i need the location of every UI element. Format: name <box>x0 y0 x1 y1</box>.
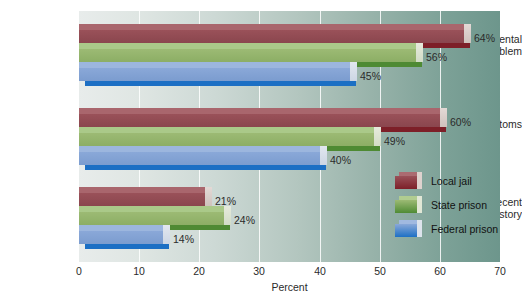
legend-swatch-state-prison-icon <box>395 200 417 213</box>
xtick-40: 40 <box>305 265 335 277</box>
value-label-recent-history-local-jail: 21% <box>215 195 236 207</box>
legend-label: State prison <box>431 199 487 211</box>
bar-any-mental-problem-state-prison[interactable] <box>79 49 416 62</box>
bar-end-cap <box>205 187 212 206</box>
legend-label: Federal prison <box>431 223 498 235</box>
legend-swatch-federal-prison-icon <box>395 224 417 237</box>
value-label-symptoms-local-jail: 60% <box>450 116 471 128</box>
xtick-10: 10 <box>124 265 154 277</box>
bar-front-face <box>79 133 374 146</box>
xtick-70: 70 <box>485 265 515 277</box>
bar-symptoms-state-prison[interactable] <box>79 133 374 146</box>
bar-end-cap <box>224 206 231 225</box>
x-axis-title: Percent <box>79 281 500 293</box>
bar-any-mental-problem-local-jail[interactable] <box>79 30 464 43</box>
xtick-60: 60 <box>425 265 455 277</box>
bar-end-cap <box>440 108 447 127</box>
bar-end-cap <box>163 225 170 244</box>
bar-front-face <box>79 49 416 62</box>
legend-label: Local jail <box>431 175 472 187</box>
xtick-20: 20 <box>184 265 214 277</box>
bar-recent-history-local-jail[interactable] <box>79 193 205 206</box>
chart-figure: Any mental problem Symptoms Recent histo… <box>0 0 522 301</box>
bar-end-cap <box>464 24 471 43</box>
bar-any-mental-problem-federal-prison[interactable] <box>79 68 350 81</box>
value-label-any-mental-problem-state-prison: 56% <box>426 51 447 63</box>
bar-shadow-face <box>85 81 356 86</box>
bar-recent-history-state-prison[interactable] <box>79 212 224 225</box>
value-label-recent-history-federal-prison: 14% <box>173 233 194 245</box>
bar-symptoms-federal-prison[interactable] <box>79 152 320 165</box>
xtick-30: 30 <box>244 265 274 277</box>
value-label-recent-history-state-prison: 24% <box>234 214 255 226</box>
bar-shadow-face <box>85 165 326 170</box>
value-label-symptoms-state-prison: 49% <box>384 135 405 147</box>
bar-end-cap <box>416 43 423 62</box>
bar-shadow-face <box>85 244 169 249</box>
bar-symptoms-local-jail[interactable] <box>79 114 440 127</box>
value-label-symptoms-federal-prison: 40% <box>330 154 351 166</box>
value-label-any-mental-problem-federal-prison: 45% <box>360 70 381 82</box>
xtick-50: 50 <box>365 265 395 277</box>
plot-area: 64% 56% 45% 60% 49% 40% <box>79 11 500 262</box>
bar-end-cap <box>374 127 381 146</box>
bar-front-face <box>79 114 440 127</box>
bar-recent-history-federal-prison[interactable] <box>79 231 163 244</box>
legend-swatch-local-jail-icon <box>395 176 417 189</box>
bar-front-face <box>79 30 464 43</box>
bar-end-cap <box>320 146 327 165</box>
bar-front-face <box>79 231 163 244</box>
bar-front-face <box>79 212 224 225</box>
xtick-0: 0 <box>64 265 94 277</box>
value-label-any-mental-problem-local-jail: 64% <box>474 32 495 44</box>
bar-front-face <box>79 152 320 165</box>
bar-front-face <box>79 193 205 206</box>
bar-front-face <box>79 68 350 81</box>
bar-end-cap <box>350 62 357 81</box>
